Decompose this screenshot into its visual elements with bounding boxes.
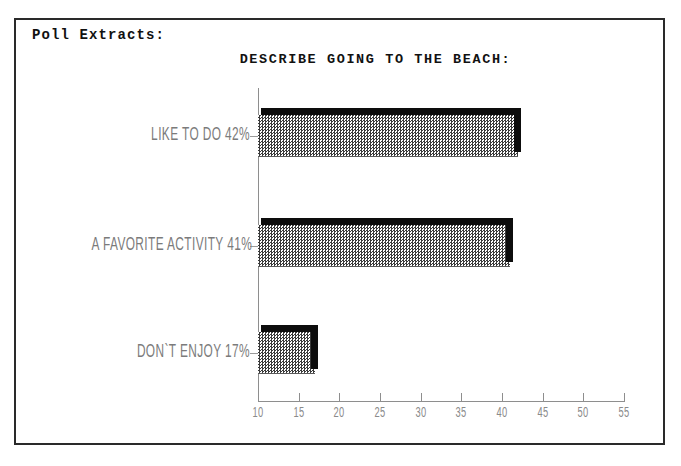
x-tick-label: 35 <box>449 403 474 420</box>
x-axis-line <box>258 401 624 402</box>
bar-label: DON`T ENJOY 17% <box>92 341 250 362</box>
x-tick-mark <box>461 393 462 402</box>
bar-top-shadow <box>261 108 521 115</box>
bar-face <box>258 332 315 374</box>
x-tick-mark <box>258 393 259 402</box>
x-tick-label: 55 <box>612 403 637 420</box>
x-tick-label: 45 <box>530 403 555 420</box>
x-tick-label: 20 <box>327 403 352 420</box>
x-tick-mark <box>543 393 544 402</box>
bar-chart: 10152025303540455055 LIKE TO DO 42%A FAV… <box>0 0 681 466</box>
bar <box>258 225 510 266</box>
x-tick-mark <box>624 393 625 402</box>
bar <box>258 115 518 156</box>
x-tick-mark <box>380 393 381 402</box>
x-tick-mark <box>299 393 300 402</box>
x-tick-label: 40 <box>490 403 515 420</box>
bar-face <box>258 225 510 267</box>
bar-face <box>258 115 518 157</box>
bar-label: LIKE TO DO 42% <box>92 124 250 145</box>
x-tick-mark <box>421 393 422 402</box>
bar <box>258 332 315 373</box>
x-tick-label: 15 <box>286 403 311 420</box>
bar-top-shadow <box>261 218 513 225</box>
bar-side-shadow <box>506 218 513 262</box>
x-tick-mark <box>583 393 584 402</box>
x-tick-label: 10 <box>246 403 271 420</box>
x-tick-label: 25 <box>368 403 393 420</box>
bar-side-shadow <box>311 325 318 369</box>
x-tick-mark <box>502 393 503 402</box>
bar-label: A FAVORITE ACTIVITY 41% <box>92 234 250 255</box>
x-tick-label: 50 <box>571 403 596 420</box>
bar-top-shadow <box>261 325 318 332</box>
x-tick-mark <box>339 393 340 402</box>
x-tick-label: 30 <box>408 403 433 420</box>
bar-side-shadow <box>514 108 521 152</box>
